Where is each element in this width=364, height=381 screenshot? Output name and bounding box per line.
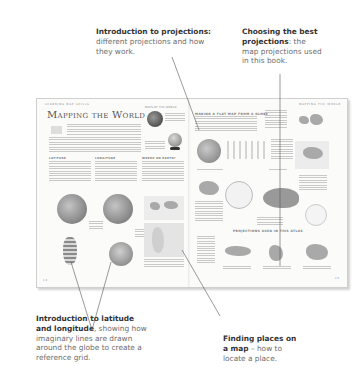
leader-projections-intro — [172, 57, 199, 130]
leader-finding-places — [182, 250, 220, 316]
leader-latitude-a — [71, 262, 92, 330]
leader-lines — [0, 0, 364, 381]
leader-latitude-b — [92, 262, 111, 330]
